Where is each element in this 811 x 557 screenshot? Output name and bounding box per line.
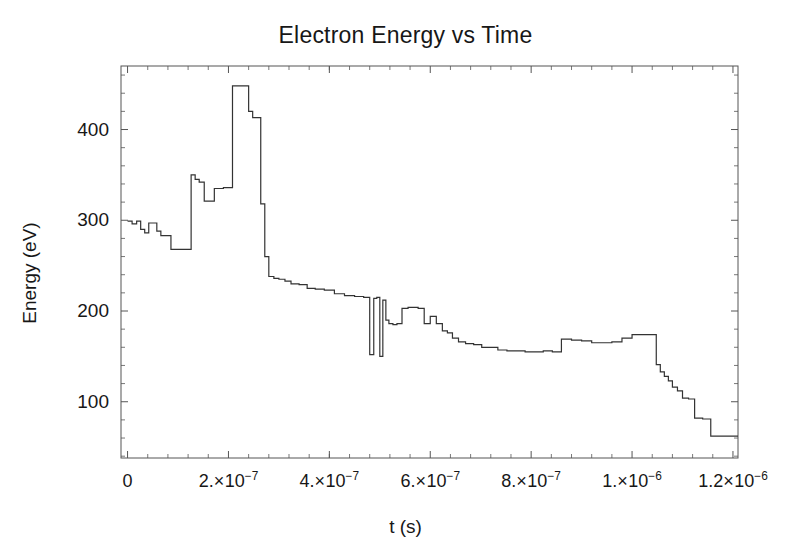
axes-frame <box>121 66 738 458</box>
x-tick-label: 8.×10−7 <box>476 472 586 490</box>
y-axis-label: Energy (eV) <box>19 173 41 373</box>
x-tick-label: 1.×10−6 <box>577 472 687 490</box>
x-axis-label: t (s) <box>0 516 811 538</box>
x-tick-label: 6.×10−7 <box>375 472 485 490</box>
y-tick-label: 100 <box>49 392 109 411</box>
x-tick-label: 1.2×10−6 <box>678 472 788 490</box>
y-tick-label: 200 <box>49 301 109 320</box>
y-tick-label: 400 <box>49 120 109 139</box>
chart-figure: Electron Energy vs Time Energy (eV) t (s… <box>0 0 811 557</box>
y-tick-label: 300 <box>49 210 109 229</box>
data-series-electron-energy <box>128 86 738 436</box>
chart-title: Electron Energy vs Time <box>0 22 811 49</box>
x-tick-label: 2.×10−7 <box>173 472 283 490</box>
x-tick-label: 4.×10−7 <box>274 472 384 490</box>
axis-ticks <box>121 66 738 458</box>
x-tick-label: 0 <box>73 472 183 490</box>
